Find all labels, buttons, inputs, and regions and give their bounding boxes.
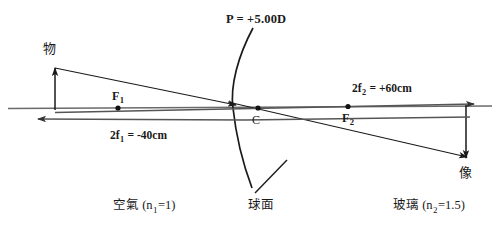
focal-point-1-label: F1	[112, 90, 125, 105]
center-of-curvature-dot	[255, 105, 260, 110]
two-f1-label: 2f1 = -40cm	[110, 130, 167, 145]
two-f1-prefix: 2f	[110, 129, 120, 141]
focal-point-1-dot	[115, 105, 120, 110]
two-f2-suffix: = +60cm	[367, 82, 412, 94]
focal-point-2-label: F2	[342, 112, 355, 127]
incident-ray-to-vertex	[55, 68, 236, 105]
two-f2-prefix: 2f	[352, 82, 362, 94]
optics-diagram-canvas: P = +5.00D 物 F1 F2 C 2f1 = -40cm 2f2 = +…	[0, 0, 498, 231]
focal-point-2-dot	[345, 104, 350, 109]
object-label: 物	[43, 42, 56, 55]
medium-left-label: 空氣 (n1=1)	[113, 199, 176, 215]
construction-ray-left	[38, 119, 245, 120]
image-label: 像	[459, 166, 472, 179]
two-f2-label: 2f2 = +60cm	[352, 83, 412, 98]
medium-right-label: 玻璃 (n2=1.5)	[393, 199, 465, 215]
medium-left-name: 空氣	[113, 197, 139, 212]
medium-right-index-close: =1.5)	[438, 198, 465, 212]
two-f1-suffix: = -40cm	[125, 129, 167, 141]
power-label: P = +5.00D	[226, 13, 286, 26]
surface-leader-line	[255, 160, 287, 193]
medium-left-index-open: (n	[139, 198, 153, 212]
focal-point-1-subscript: 1	[119, 95, 124, 105]
spherical-surface-label: 球面	[248, 199, 274, 212]
center-of-curvature-label: C	[252, 114, 260, 126]
focal-point-2-subscript: 2	[349, 117, 354, 127]
medium-right-name: 玻璃	[393, 197, 419, 212]
construction-ray-left-extension	[245, 117, 470, 120]
medium-left-index-close: =1)	[158, 198, 175, 212]
medium-right-index-open: (n	[419, 198, 433, 212]
